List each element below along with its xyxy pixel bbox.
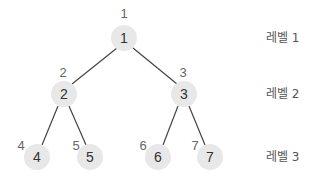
node-label: 3: [180, 86, 188, 102]
edge-3-6: [163, 106, 178, 145]
tree-node: 1 1: [111, 6, 137, 52]
node-index: 1: [120, 6, 127, 21]
edge-1-3: [133, 48, 177, 84]
tree-node: 6 6: [139, 138, 171, 171]
tree-node: 2 2: [51, 65, 77, 108]
node-index: 5: [72, 138, 79, 153]
edge-1-2: [72, 48, 117, 84]
node-label: 6: [154, 149, 162, 165]
edge-2-4: [42, 106, 58, 145]
node-label: 1: [120, 30, 128, 46]
tree-node: 7 7: [191, 138, 223, 171]
tree-node: 4 4: [17, 138, 50, 171]
node-label: 7: [206, 149, 214, 165]
binary-tree-diagram: 1 1 2 2 3 3 4 4 5 5 6 6 7 7: [0, 0, 311, 180]
node-index: 3: [179, 65, 186, 80]
level-label-2: 레벨 2: [266, 87, 299, 101]
tree-node: 5 5: [72, 138, 103, 171]
node-index: 6: [139, 138, 146, 153]
level-label-3: 레벨 3: [266, 150, 299, 164]
tree-node: 3 3: [171, 65, 197, 108]
node-label: 4: [33, 149, 41, 165]
node-index: 7: [191, 138, 198, 153]
node-index: 2: [59, 65, 66, 80]
node-index: 4: [17, 138, 24, 153]
level-label-1: 레벨 1: [266, 31, 299, 45]
node-label: 5: [86, 149, 94, 165]
node-label: 2: [60, 86, 68, 102]
